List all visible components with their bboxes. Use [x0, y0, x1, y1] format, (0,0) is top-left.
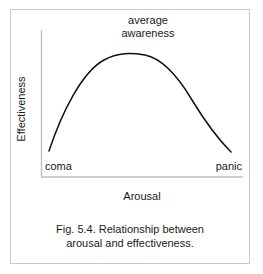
- x-axis-end-label: panic: [182, 160, 242, 172]
- x-axis-title: Arousal: [62, 190, 222, 202]
- caption-line1: Fig. 5.4. Relationship between: [18, 222, 242, 236]
- figure-container: average awareness Effectiveness coma pan…: [0, 0, 263, 274]
- peak-annotation-line1: average: [98, 14, 198, 27]
- curve-path: [49, 54, 231, 152]
- peak-annotation: average awareness: [98, 14, 198, 40]
- y-axis-title: Effectiveness: [15, 69, 27, 149]
- peak-annotation-line2: awareness: [98, 27, 198, 40]
- caption-line2: arousal and effectiveness.: [18, 236, 242, 250]
- figure-caption: Fig. 5.4. Relationship between arousal a…: [18, 222, 242, 250]
- x-axis-start-label: coma: [45, 160, 72, 172]
